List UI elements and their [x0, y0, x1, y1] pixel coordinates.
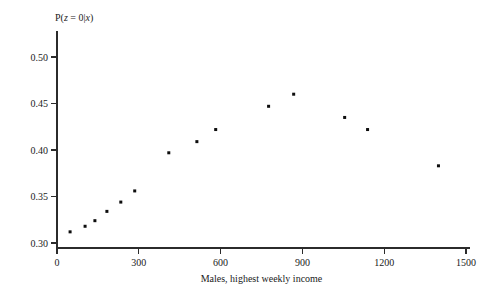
tick-labels-group: 0.300.350.400.450.50030060090012001500	[31, 52, 477, 268]
plot-canvas: 0.300.350.400.450.50030060090012001500 M…	[0, 0, 480, 296]
tick-marks-group	[51, 57, 466, 254]
data-point	[119, 201, 122, 204]
y-tick-label: 0.35	[31, 191, 49, 202]
x-tick-label: 1200	[374, 257, 394, 268]
data-point	[292, 93, 295, 96]
y-axis-title: P(z = 0|x)	[55, 12, 93, 24]
data-point	[84, 225, 87, 228]
data-point	[267, 105, 270, 108]
data-point	[133, 189, 136, 192]
x-tick-label: 0	[55, 257, 60, 268]
axes-group	[57, 31, 470, 248]
data-point	[69, 230, 72, 233]
data-point	[167, 151, 170, 154]
x-tick-label: 900	[295, 257, 310, 268]
x-tick-label: 600	[213, 257, 228, 268]
y-tick-label: 0.40	[31, 145, 49, 156]
data-point	[105, 210, 108, 213]
y-tick-label: 0.50	[31, 52, 49, 63]
data-point	[437, 164, 440, 167]
data-point	[214, 128, 217, 131]
x-tick-label: 1500	[456, 257, 476, 268]
data-point	[343, 116, 346, 119]
data-points-group	[69, 93, 440, 234]
y-axis-title-part-eq: = 0|	[68, 12, 86, 23]
y-tick-label: 0.30	[31, 238, 49, 249]
y-tick-label: 0.45	[31, 98, 49, 109]
y-axis-title-part-close: )	[90, 12, 93, 24]
scatter-plot-figure: 0.300.350.400.450.50030060090012001500 M…	[0, 0, 480, 296]
x-tick-label: 300	[131, 257, 146, 268]
x-axis-title: Males, highest weekly income	[201, 273, 323, 284]
data-point	[366, 128, 369, 131]
axis-titles-group: Males, highest weekly incomeP(z = 0|x)	[55, 12, 323, 284]
data-point	[93, 219, 96, 222]
data-point	[195, 140, 198, 143]
